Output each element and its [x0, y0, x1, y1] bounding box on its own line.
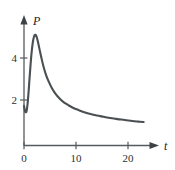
y-tick-label-2: 2 — [12, 94, 18, 106]
y-axis-arrow-icon — [20, 15, 27, 25]
y-axis-label: P — [32, 14, 41, 28]
data-curve-P — [24, 35, 144, 122]
x-tick-label-0: 0 — [21, 152, 27, 164]
x-tick-label-20: 20 — [123, 152, 135, 164]
x-axis-label: t — [164, 139, 168, 153]
x-axis-arrow-icon — [150, 142, 160, 149]
x-tick-label-10: 10 — [71, 152, 83, 164]
y-tick-label-4: 4 — [12, 52, 18, 64]
plot-area: 4 2 0 10 20 P t — [0, 0, 175, 170]
chart-figure: 4 2 0 10 20 P t — [0, 0, 175, 170]
